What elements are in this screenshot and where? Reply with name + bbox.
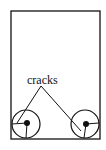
leader-line-right [41, 86, 81, 131]
leader-line-left [17, 86, 41, 123]
cracks-label: cracks [27, 73, 58, 87]
left-wheel [12, 110, 40, 138]
cracks-diagram: cracks [0, 0, 106, 150]
